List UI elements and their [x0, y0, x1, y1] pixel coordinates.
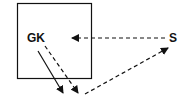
- arrow-gk-dashed-down: [45, 46, 78, 93]
- node-gk-label: GK: [27, 31, 45, 45]
- arrow-gk-solid-down: [38, 51, 63, 93]
- arrow-up-to-s: [85, 48, 168, 94]
- node-s-label: S: [169, 31, 177, 45]
- diagram-canvas: [0, 0, 189, 111]
